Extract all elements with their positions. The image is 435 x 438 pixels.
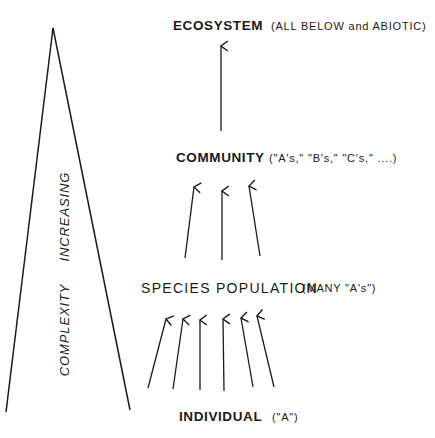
arrows-individual-to-population — [148, 316, 274, 391]
arrow-up-icon — [148, 319, 166, 388]
complexity-word: COMPLEXITY — [57, 284, 72, 377]
level-population-name: SPECIES POPULATION — [141, 281, 318, 295]
increasing-word: INCREASING — [57, 172, 72, 262]
arrow-up-icon — [257, 316, 274, 387]
complexity-increasing-label: COMPLEXITYINCREASING — [58, 172, 71, 377]
arrows-population-to-community — [185, 186, 260, 260]
level-community-name: COMMUNITY — [176, 151, 265, 165]
arrow-up-icon — [249, 186, 260, 256]
level-population-note: (MANY "A's") — [302, 283, 376, 294]
arrow-up-icon — [185, 187, 194, 258]
arrow-up-icon — [241, 318, 253, 387]
level-ecosystem-note: (ALL BELOW and ABIOTIC) — [271, 21, 427, 32]
level-ecosystem-name: ECOSYSTEM — [173, 19, 263, 33]
level-individual-note: ("A") — [272, 412, 298, 423]
level-community-note: ("A's," "B's," "C's," ....) — [269, 153, 397, 164]
arrow-up-icon — [223, 319, 224, 391]
level-individual-name: INDIVIDUAL — [179, 410, 262, 424]
arrow-up-icon — [173, 319, 183, 389]
